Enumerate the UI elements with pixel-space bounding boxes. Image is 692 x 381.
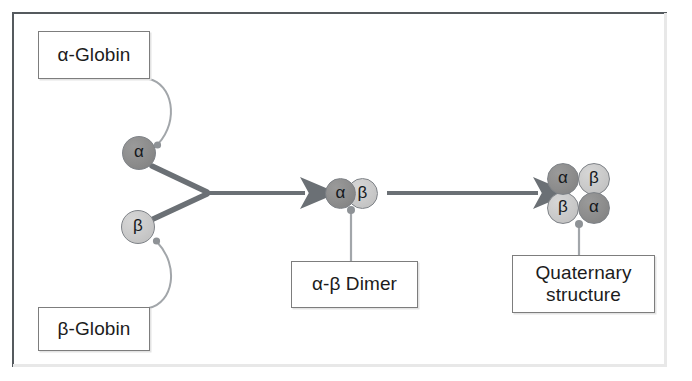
label-box-beta-globin: β-Globin: [38, 307, 150, 351]
label-box-quaternary: Quaternary structure: [512, 255, 655, 313]
subunit-dimer-alpha: α: [325, 178, 356, 209]
subunit-label-tetramer-beta-top-right: β: [589, 168, 599, 188]
label-box-alpha-globin: α-Globin: [38, 31, 150, 79]
label-quaternary-line2: structure: [535, 284, 631, 306]
label-box-dimer: α-β Dimer: [291, 261, 418, 308]
subunit-beta-monomer: β: [121, 210, 155, 244]
subunit-label-alpha: α: [134, 142, 144, 162]
label-quaternary-line1: Quaternary: [535, 262, 631, 284]
subunit-tetramer-beta-top-right: β: [578, 163, 610, 195]
subunit-label-tetramer-alpha-top-left: α: [558, 168, 568, 188]
label-quaternary: Quaternary structure: [535, 262, 631, 307]
label-beta-globin: β-Globin: [58, 318, 131, 340]
subunit-label-dimer-beta: β: [358, 183, 368, 203]
subunit-label-tetramer-beta-bottom-left: β: [558, 197, 568, 217]
subunit-label-dimer-alpha: α: [336, 183, 346, 203]
subunit-alpha-monomer: α: [122, 136, 156, 170]
subunit-tetramer-alpha-bottom-right: α: [578, 192, 610, 224]
subunit-tetramer-alpha-top-left: α: [547, 163, 579, 195]
subunit-label-tetramer-alpha-bottom-right: α: [589, 197, 599, 217]
label-dimer: α-β Dimer: [312, 273, 397, 295]
subunit-tetramer-beta-bottom-left: β: [547, 192, 579, 224]
diagram-canvas: α-Globin β-Globin α-β Dimer Quaternary s…: [0, 0, 692, 381]
subunit-label-beta: β: [133, 216, 143, 236]
label-alpha-globin: α-Globin: [57, 44, 130, 66]
